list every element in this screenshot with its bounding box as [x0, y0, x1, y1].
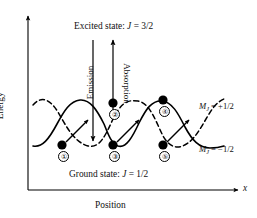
state-badge-2: ②	[109, 109, 120, 120]
excited-state-text: Excited state:	[74, 21, 127, 31]
excited-state-label: Excited state: J = 3/2	[74, 22, 153, 31]
energy-position-diagram: ① ② ③ ④ ⑤ Excited state: J = 3/2 Ground …	[0, 0, 257, 218]
ground-state-label: Ground state: J = 1/2	[69, 170, 148, 179]
state-badge-4: ④	[159, 106, 170, 117]
absorption-label: Absorption	[122, 63, 131, 104]
mj-plus-half-label: MJ = +1/2	[199, 102, 234, 112]
emission-label: Emission	[86, 66, 95, 100]
mj-minus-half-label: MJ = −1/2	[199, 145, 234, 155]
mj-plus-value: = +1/2	[209, 101, 234, 111]
atom-dot-4	[158, 95, 167, 104]
atom-dot-5	[158, 140, 167, 149]
excited-state-value: = 3/2	[131, 21, 153, 31]
atom-dot-1	[57, 140, 66, 149]
climb-arrow-5	[167, 120, 189, 142]
mj-minus-value: = −1/2	[209, 144, 234, 154]
state-badge-3: ③	[109, 151, 120, 162]
state-badge-1: ①	[58, 151, 69, 162]
x-axis-label: Position	[95, 201, 126, 210]
ground-state-value: = 1/2	[126, 169, 148, 179]
state-badge-5: ⑤	[159, 151, 170, 162]
x-axis-symbol: x	[243, 184, 247, 193]
atom-dot-3	[108, 140, 117, 149]
dashed-potential-curve	[33, 99, 224, 147]
ground-state-text: Ground state:	[69, 169, 122, 179]
y-axis-label: Energy	[0, 92, 5, 119]
atom-dot-2	[108, 98, 117, 107]
